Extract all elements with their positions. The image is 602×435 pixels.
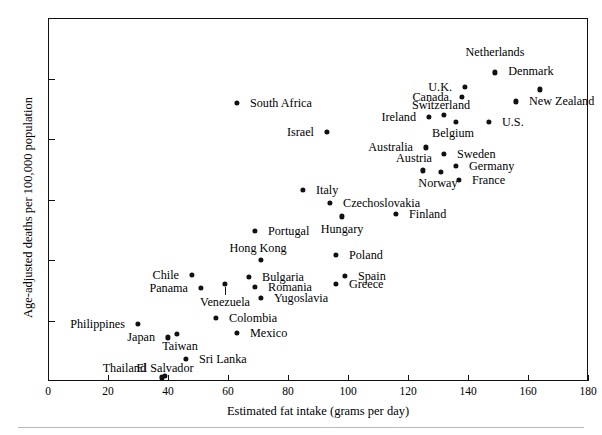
x-tick-label: 0 — [45, 386, 51, 398]
x-tick-mark — [108, 375, 109, 381]
y-tick-mark — [48, 79, 55, 80]
data-point-label: Thailand — [103, 362, 146, 374]
data-point-label: Sri Lanka — [199, 353, 247, 365]
data-point-label: Poland — [349, 249, 383, 261]
data-point-label: Germany — [469, 160, 514, 172]
data-point-label: Venezuela — [200, 296, 250, 308]
y-tick-mark — [48, 200, 55, 201]
x-tick-label: 160 — [519, 386, 536, 398]
data-point-label: Switzerland — [412, 99, 470, 111]
data-point-label: Japan — [127, 331, 155, 343]
y-axis-title: Age-adjusted deaths per 100,000 populati… — [21, 68, 36, 348]
y-tick-mark — [48, 260, 55, 261]
y-tick-mark — [48, 321, 55, 322]
x-tick-label: 80 — [282, 386, 294, 398]
data-point-label: Italy — [316, 184, 338, 196]
data-point-label: Mexico — [250, 326, 287, 338]
data-point-label: France — [472, 174, 505, 186]
x-tick-label: 60 — [222, 386, 234, 398]
scatter-chart-figure: 051015202530 020406080100120140160180 Ne… — [0, 0, 602, 435]
x-tick-label: 180 — [579, 386, 596, 398]
x-tick-mark — [348, 375, 349, 381]
x-tick-mark — [588, 375, 589, 381]
x-tick-mark — [228, 375, 229, 381]
data-point-label: Yugoslavia — [274, 291, 328, 303]
x-tick-label: 140 — [459, 386, 476, 398]
data-point-label: Chile — [153, 268, 179, 280]
label-leader-line — [225, 287, 226, 295]
data-point-label: South Africa — [250, 97, 312, 109]
data-point-label: Portugal — [268, 225, 309, 237]
data-point-label: Finland — [409, 208, 446, 220]
data-point-label: U.S. — [502, 116, 524, 128]
data-point-label: Taiwan — [162, 340, 198, 352]
x-tick-mark — [168, 375, 169, 381]
data-point-label: New Zealand — [529, 95, 594, 107]
x-tick-label: 100 — [339, 386, 356, 398]
data-point-label: Colombia — [229, 312, 277, 324]
x-tick-mark — [528, 375, 529, 381]
x-tick-label: 20 — [102, 386, 114, 398]
data-point-label: Philippines — [70, 318, 125, 330]
x-tick-label: 120 — [399, 386, 416, 398]
y-tick-mark — [48, 18, 55, 19]
x-tick-mark — [288, 375, 289, 381]
data-point-label: Panama — [149, 282, 188, 294]
y-tick-mark — [48, 139, 55, 140]
x-tick-label: 40 — [162, 386, 174, 398]
data-point-label: Hungary — [321, 222, 364, 234]
x-axis-title: Estimated fat intake (grams per day) — [48, 404, 588, 419]
data-point-label: Ireland — [381, 111, 416, 123]
data-point-label: Austria — [396, 152, 432, 164]
footer-rule — [18, 427, 584, 428]
x-tick-mark — [408, 375, 409, 381]
data-point-label: Denmark — [508, 65, 553, 77]
data-point-label: Netherlands — [466, 46, 525, 58]
data-point-label: Belgium — [432, 127, 474, 139]
data-point-label: Greece — [349, 278, 384, 290]
x-tick-mark — [48, 375, 49, 381]
plot-area-frame — [48, 18, 588, 381]
data-point-label: Norway — [418, 176, 457, 188]
x-tick-mark — [468, 375, 469, 381]
data-point-label: Israel — [287, 126, 314, 138]
data-point-label: Hong Kong — [229, 242, 286, 254]
